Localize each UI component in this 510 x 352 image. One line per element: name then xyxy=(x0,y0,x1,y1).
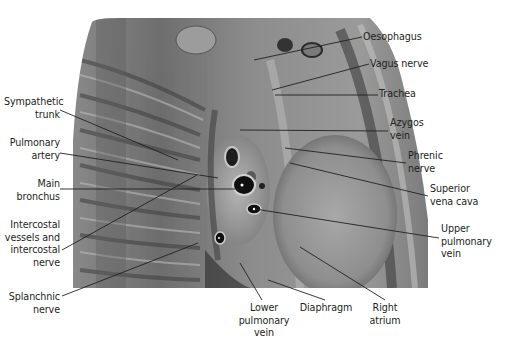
label-superior-vena-cava: Superior vena cava xyxy=(430,183,478,208)
label-azygos-vein: Azygos vein xyxy=(390,117,424,142)
label-main-bronchus: Main bronchus xyxy=(4,178,60,203)
label-intercostal-vessels-nerve: Intercostal vessels and intercostal nerv… xyxy=(4,219,60,269)
label-right-atrium: Right atrium xyxy=(363,302,407,327)
label-phrenic-nerve: Phrenic nerve xyxy=(408,150,443,175)
dissection-photograph xyxy=(0,0,510,352)
anatomy-figure: Sympathetic trunk Pulmonary artery Main … xyxy=(0,0,510,352)
label-lower-pulmonary-vein: Lower pulmonary vein xyxy=(234,302,294,340)
label-pulmonary-artery: Pulmonary artery xyxy=(4,137,60,162)
label-trachea: Trachea xyxy=(379,88,416,101)
label-vagus-nerve: Vagus nerve xyxy=(370,58,428,71)
label-oesophagus: Oesophagus xyxy=(363,31,422,44)
label-sympathetic-trunk: Sympathetic trunk xyxy=(4,96,60,121)
label-diaphragm: Diaphragm xyxy=(296,302,356,315)
label-splanchnic-nerve: Splanchnic nerve xyxy=(4,291,60,316)
label-upper-pulmonary-vein: Upper pulmonary vein xyxy=(441,223,492,261)
